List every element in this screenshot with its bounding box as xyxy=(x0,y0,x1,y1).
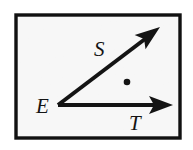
label-vertex-e: E xyxy=(35,94,49,118)
label-ray-t: T xyxy=(129,111,142,135)
label-ray-s: S xyxy=(94,37,105,61)
angle-diagram-figure: E S T xyxy=(0,0,193,150)
interior-point-dot xyxy=(124,79,131,86)
angle-diagram-canvas: E S T xyxy=(0,0,193,150)
